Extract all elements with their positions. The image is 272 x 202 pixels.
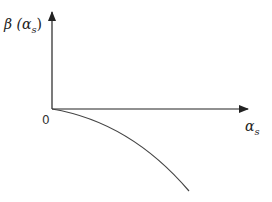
x-axis-label: αs xyxy=(245,118,260,137)
diagram-canvas: β (αs) αs 0 xyxy=(0,0,272,202)
beta-curve xyxy=(52,109,189,191)
origin-label: 0 xyxy=(42,113,50,127)
y-axis-label: β (αs) xyxy=(4,16,42,35)
